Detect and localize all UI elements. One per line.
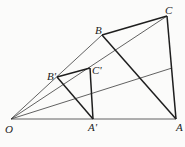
segment-Bp-Ap: [57, 77, 93, 119]
label-O: O: [5, 124, 13, 135]
label-B-prime: B': [47, 71, 56, 82]
label-C-prime: C': [92, 65, 102, 76]
label-B: B: [95, 25, 102, 36]
line-O-B: [11, 35, 102, 119]
label-A: A: [176, 122, 183, 133]
segment-B-C: [102, 16, 167, 35]
label-C: C: [165, 5, 172, 16]
segment-B-A: [102, 35, 176, 119]
label-A-prime: A': [88, 122, 97, 133]
segment-C-A: [167, 16, 176, 119]
homothety-diagram: O A B C A' B' C': [0, 0, 185, 147]
